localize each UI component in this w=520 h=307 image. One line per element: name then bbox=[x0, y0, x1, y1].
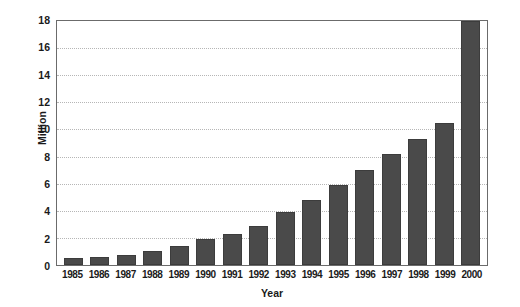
bar-slot bbox=[87, 21, 114, 265]
y-tick-label: 6 bbox=[24, 179, 50, 190]
bars-group bbox=[57, 21, 487, 265]
bar-slot bbox=[299, 21, 326, 265]
y-tick-label: 8 bbox=[24, 151, 50, 162]
y-tick-label: 14 bbox=[24, 69, 50, 80]
x-tick-label: 1991 bbox=[219, 269, 246, 280]
bar[interactable] bbox=[382, 154, 401, 265]
y-tick-label: 16 bbox=[24, 42, 50, 53]
x-tick-label: 1990 bbox=[192, 269, 219, 280]
bar-slot bbox=[352, 21, 379, 265]
x-tick-label: 1987 bbox=[112, 269, 139, 280]
y-tick-label: 12 bbox=[24, 97, 50, 108]
bar[interactable] bbox=[302, 200, 321, 265]
x-tick-label: 1995 bbox=[325, 269, 352, 280]
bar[interactable] bbox=[223, 234, 242, 265]
bar[interactable] bbox=[90, 257, 109, 265]
x-tick-label: 1985 bbox=[59, 269, 86, 280]
x-axis-title: Year bbox=[56, 287, 488, 299]
x-tick-label: 1998 bbox=[405, 269, 432, 280]
bar-slot bbox=[219, 21, 246, 265]
y-tick-label: 18 bbox=[24, 15, 50, 26]
bar[interactable] bbox=[170, 246, 189, 265]
bar[interactable] bbox=[249, 226, 268, 265]
bar[interactable] bbox=[64, 258, 83, 265]
bar[interactable] bbox=[143, 251, 162, 265]
x-tick-label: 1992 bbox=[245, 269, 272, 280]
bar-slot bbox=[431, 21, 458, 265]
bar-slot bbox=[60, 21, 87, 265]
x-tick-label: 1996 bbox=[352, 269, 379, 280]
bar-slot bbox=[193, 21, 220, 265]
bar[interactable] bbox=[461, 21, 480, 265]
plot-area bbox=[56, 20, 488, 266]
x-tick-label: 1997 bbox=[379, 269, 406, 280]
bar-slot bbox=[113, 21, 140, 265]
bar[interactable] bbox=[408, 139, 427, 265]
bar[interactable] bbox=[355, 170, 374, 265]
bar-chart: Million 024681012141618 1985198619871988… bbox=[0, 0, 520, 307]
y-tick-label: 4 bbox=[24, 206, 50, 217]
bar-slot bbox=[378, 21, 405, 265]
x-tick-label: 1999 bbox=[432, 269, 459, 280]
x-tick-label: 1993 bbox=[272, 269, 299, 280]
x-axis-tick-labels: 1985198619871988198919901991199219931994… bbox=[56, 269, 488, 280]
bar-slot bbox=[246, 21, 273, 265]
bar-slot bbox=[405, 21, 432, 265]
x-tick-label: 1988 bbox=[139, 269, 166, 280]
bar[interactable] bbox=[435, 123, 454, 265]
bar-slot bbox=[272, 21, 299, 265]
y-tick-label: 0 bbox=[24, 261, 50, 272]
x-tick-label: 2000 bbox=[458, 269, 485, 280]
bar-slot bbox=[166, 21, 193, 265]
x-tick-label: 1994 bbox=[299, 269, 326, 280]
y-tick-label: 2 bbox=[24, 233, 50, 244]
bar-slot bbox=[140, 21, 167, 265]
x-tick-label: 1989 bbox=[166, 269, 193, 280]
bar-slot bbox=[458, 21, 485, 265]
y-axis-tick-labels: 024681012141618 bbox=[24, 20, 50, 266]
bar[interactable] bbox=[117, 255, 136, 265]
x-tick-label: 1986 bbox=[86, 269, 113, 280]
bar-slot bbox=[325, 21, 352, 265]
bar[interactable] bbox=[329, 185, 348, 265]
bar[interactable] bbox=[196, 239, 215, 265]
y-tick-label: 10 bbox=[24, 124, 50, 135]
bar[interactable] bbox=[276, 212, 295, 265]
